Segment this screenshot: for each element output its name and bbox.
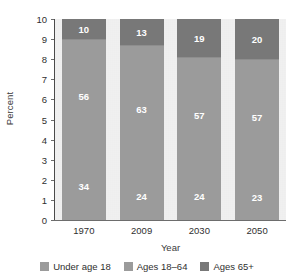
y-axis-tick-label: 7	[42, 74, 47, 85]
legend-color-swatch	[124, 262, 133, 271]
x-axis-tick-label: 2050	[227, 225, 287, 236]
bar-2030[interactable]: 245719	[177, 19, 221, 220]
bar-segment[interactable]: 56	[62, 39, 106, 152]
bar-segment[interactable]: 13	[120, 19, 164, 45]
x-axis-tick-label: 2009	[112, 225, 172, 236]
legend-item-1[interactable]: Under age 18	[40, 261, 111, 272]
bar-value-label: 24	[120, 190, 164, 201]
legend-label: Under age 18	[53, 261, 111, 272]
bar-value-label: 57	[177, 109, 221, 120]
legend-label: Ages 65+	[213, 261, 253, 272]
bar-value-label: 56	[62, 90, 106, 101]
bar-segment[interactable]: 57	[177, 57, 221, 172]
bar-value-label: 20	[235, 34, 279, 45]
stacked-bar-chart: Percent 012345678910 3456102463132457192…	[0, 0, 294, 277]
bar-2050[interactable]: 235720	[235, 19, 279, 220]
x-axis-spine	[54, 220, 286, 221]
bar-2009[interactable]: 246313	[120, 19, 164, 220]
legend-item-2[interactable]: Ages 18–64	[124, 261, 188, 272]
bar-value-label: 19	[177, 33, 221, 44]
bar-segment[interactable]: 24	[120, 172, 164, 220]
legend-item-3[interactable]: Ages 65+	[200, 261, 253, 272]
y-axis-tick-label: 0	[42, 215, 47, 226]
bar-segment[interactable]: 23	[235, 174, 279, 220]
x-axis-tick-label: 1970	[54, 225, 114, 236]
bar-value-label: 13	[120, 27, 164, 38]
x-axis-title: Year	[55, 242, 286, 253]
bar-value-label: 10	[62, 24, 106, 35]
bar-segment[interactable]: 24	[177, 172, 221, 220]
bar-value-label: 23	[235, 191, 279, 202]
bar-segment[interactable]: 19	[177, 19, 221, 57]
bar-value-label: 57	[235, 112, 279, 123]
y-axis-tick-label: 8	[42, 54, 47, 65]
y-axis-tick-label: 6	[42, 94, 47, 105]
y-axis-title: Percent	[4, 79, 15, 139]
bar-segment[interactable]: 57	[235, 59, 279, 174]
bar-1970[interactable]: 345610	[62, 19, 106, 220]
y-axis-tick-label: 9	[42, 34, 47, 45]
bar-value-label: 63	[120, 103, 164, 114]
y-axis-tick-label: 4	[42, 134, 47, 145]
y-axis-tick-label: 2	[42, 174, 47, 185]
bar-segment[interactable]: 10	[62, 19, 106, 39]
y-axis-tick-label: 1	[42, 194, 47, 205]
chart-legend: Under age 18Ages 18–64Ages 65+	[0, 261, 294, 272]
bar-value-label: 24	[177, 190, 221, 201]
x-axis-tick-label: 2030	[169, 225, 229, 236]
plot-area: 345610246313245719235720	[55, 19, 286, 220]
legend-color-swatch	[200, 262, 209, 271]
y-axis-tick-label: 3	[42, 154, 47, 165]
bar-segment[interactable]: 20	[235, 19, 279, 59]
legend-color-swatch	[40, 262, 49, 271]
legend-label: Ages 18–64	[137, 261, 188, 272]
bar-segment[interactable]: 34	[62, 152, 106, 220]
y-axis-tick-label: 5	[42, 114, 47, 125]
bar-value-label: 34	[62, 180, 106, 191]
bar-segment[interactable]: 63	[120, 45, 164, 172]
y-axis-tick-label: 10	[36, 14, 47, 25]
y-axis: 012345678910	[26, 14, 55, 220]
